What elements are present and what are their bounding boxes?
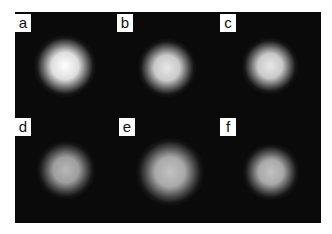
panel-label-e: e xyxy=(119,118,135,136)
speckle-spot-f xyxy=(242,143,300,201)
speckle-spot-c xyxy=(241,37,299,95)
panel-label-c: c xyxy=(220,14,236,32)
speckle-spot-a xyxy=(33,34,97,98)
speckle-spot-e xyxy=(135,137,205,207)
panel-label-b: b xyxy=(117,14,133,32)
panel-label-a: a xyxy=(15,14,31,32)
panel-label-f: f xyxy=(220,118,236,136)
panel-label-d: d xyxy=(15,118,31,136)
